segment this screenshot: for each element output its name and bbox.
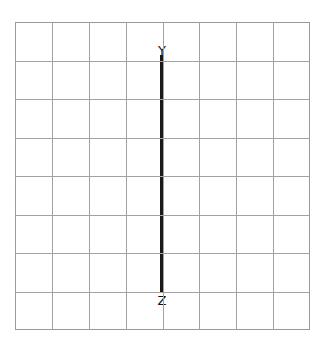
grid-line-horizontal	[15, 292, 310, 293]
geometry-figure: Y Z	[0, 0, 325, 346]
grid-line-horizontal	[15, 61, 310, 62]
point-label-z: Z	[142, 294, 182, 307]
grid-line-horizontal	[15, 176, 310, 177]
grid-line-horizontal	[15, 253, 310, 254]
point-label-y: Y	[142, 44, 182, 57]
grid-line-horizontal	[15, 138, 310, 139]
grid-line-horizontal	[15, 99, 310, 100]
grid-line-horizontal	[15, 215, 310, 216]
